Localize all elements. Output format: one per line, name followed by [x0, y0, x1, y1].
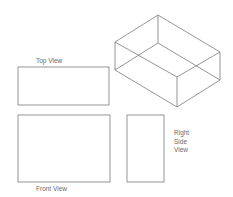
top-view-label: Top View — [36, 57, 62, 66]
box-edge — [158, 15, 220, 52]
right-side-view-label-line: Side — [174, 138, 189, 147]
isometric-box — [115, 15, 220, 107]
right-side-view-rect — [127, 115, 164, 182]
box-edge — [177, 52, 220, 77]
diagram-canvas — [0, 0, 233, 197]
right-side-view-label-line: Right — [174, 129, 189, 138]
front-view-rect — [18, 115, 110, 182]
box-edge-hidden — [115, 43, 158, 70]
box-edge — [115, 42, 177, 77]
right-side-view-label-line: View — [174, 146, 189, 155]
box-edge — [115, 70, 177, 107]
top-view-rect — [18, 67, 109, 105]
front-view-label: Front View — [36, 185, 67, 194]
right-side-view-label: Right Side View — [174, 129, 189, 155]
box-edge — [177, 80, 220, 107]
box-edge-hidden — [158, 43, 220, 80]
box-edge — [115, 15, 158, 42]
